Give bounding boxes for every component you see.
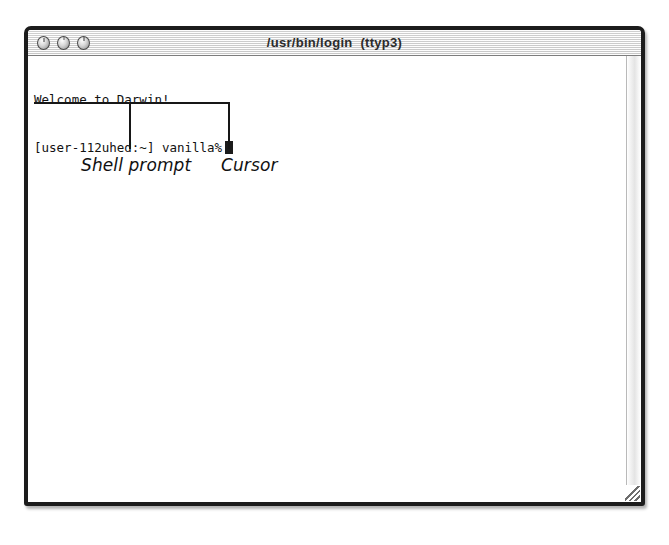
window-controls-group: [28, 36, 90, 50]
scanned-page-background: /usr/bin/login (ttyp3) Welcome to Darwin…: [0, 0, 669, 545]
close-button-icon[interactable]: [37, 36, 50, 50]
terminal-line-welcome: Welcome to Darwin!: [34, 92, 233, 108]
minimize-button-icon[interactable]: [57, 36, 70, 50]
vertical-scrollbar[interactable]: [626, 56, 641, 485]
window-title-bar[interactable]: /usr/bin/login (ttyp3): [28, 30, 641, 56]
window-title: /usr/bin/login (ttyp3): [28, 35, 641, 50]
terminal-window: /usr/bin/login (ttyp3) Welcome to Darwin…: [24, 26, 645, 506]
terminal-content-area[interactable]: Welcome to Darwin! [user-112uhed:~] vani…: [28, 56, 641, 502]
zoom-button-icon[interactable]: [77, 36, 90, 50]
text-cursor: [225, 141, 233, 154]
terminal-line-prompt: [user-112uhed:~] vanilla%: [34, 140, 233, 156]
shell-prompt-text: [user-112uhed:~] vanilla%: [34, 140, 222, 155]
resize-grip-icon[interactable]: [625, 486, 640, 501]
terminal-output: Welcome to Darwin! [user-112uhed:~] vani…: [34, 60, 233, 188]
